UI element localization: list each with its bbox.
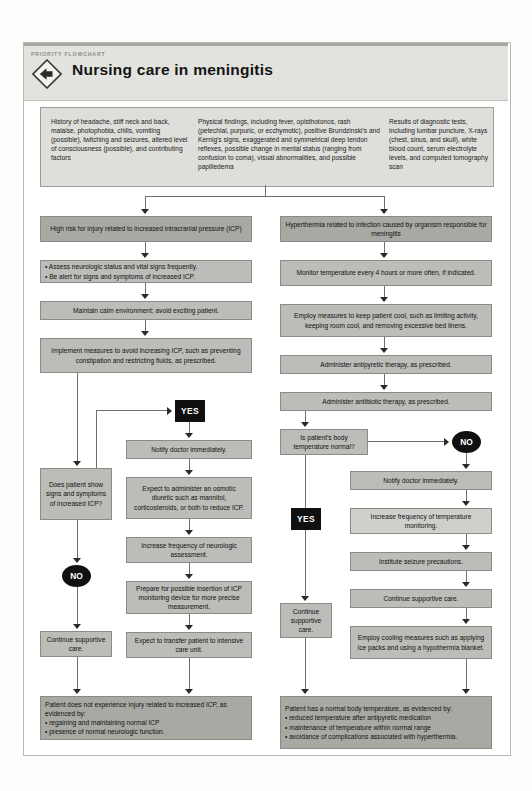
connector [189,658,190,690]
arrow-icon [444,438,449,446]
arrow-icon [185,433,193,438]
left-continue-care-box: Continue supportive care. [40,631,112,657]
arrow-icon [185,470,193,475]
arrow-icon [185,574,193,579]
arrow-icon [301,689,309,694]
left-increase-neuro-assessment-box: Increase frequency of neurologic assessm… [126,537,252,563]
left-transfer-icu-box: Expect to transfer patient to intensive … [126,632,252,658]
connector [384,196,385,210]
arrow-icon [462,464,470,469]
flowchart-page: PRIORITY FLOWCHART Nursing care in menin… [0,0,532,791]
right-decision-box: Is patient's body temperature normal? [280,429,368,455]
left-outcome-box: Patient does not experience injury relat… [40,696,252,740]
assessment-col-history: History of headache, stiff neck and back… [51,117,189,162]
right-continue-care-box: Continue supportive care. [280,603,332,638]
connector [368,441,445,442]
left-yes-badge: YES [175,400,205,422]
arrow-icon [462,619,470,624]
arrow-icon [73,461,81,466]
arrow-icon [73,558,81,563]
connector [466,659,467,690]
arrow-icon [301,422,309,427]
kicker-label: PRIORITY FLOWCHART [31,51,106,57]
connector [145,196,385,197]
bullet-item: • regaining and maintaining normal ICP [45,718,247,727]
connector [77,373,78,462]
header-top-rule [24,43,508,46]
left-osmotic-diuretic-box: Expect to administer an osmotic diuretic… [126,477,252,519]
arrow-icon [380,385,388,390]
right-diagnosis-box: Hyperthermia related to infection caused… [280,216,492,242]
left-calm-environment-box: Maintain calm environment; avoid excitin… [40,301,252,320]
bullet-item: • Assess neurologic status and vital sig… [45,262,197,271]
connector [77,520,78,559]
right-notify-doctor-box: Notify doctor immediately. [350,471,492,490]
right-monitor-temperature-box: Monitor temperature every 4 hours or mor… [280,260,492,286]
left-notify-doctor-box: Notify doctor immediately. [126,440,252,459]
left-implement-measures-box: Implement measures to avoid increasing I… [40,338,252,373]
arrow-icon [380,209,388,214]
right-increase-monitoring-box: Increase frequency of temperature monito… [350,508,492,534]
outcome-intro: Patient has a normal body temperature, a… [285,704,457,713]
arrow-icon [185,530,193,535]
assessment-col-diagnostics: Results of diagnostic tests, including l… [389,117,489,172]
bullet-item: • reduced temperature after antipyretic … [285,713,457,722]
right-antipyretic-box: Administer antipyretic therapy, as presc… [280,355,492,374]
right-cooling-measures-box: Employ cooling measures such as applying… [350,626,492,659]
right-yes-badge: YES [291,508,321,530]
arrow-icon [73,624,81,629]
connector [77,657,78,690]
arrow-icon [462,545,470,550]
arrow-icon [462,689,470,694]
assessment-col-physical: Physical findings, including fever, opis… [198,117,380,172]
arrow-icon [380,297,388,302]
connector [305,530,306,597]
left-no-badge: NO [62,565,91,587]
bullet-item: • avoidance of complications associated … [285,732,457,741]
bullet-item: • presence of normal neurologic function… [45,727,247,736]
arrow-icon [73,689,81,694]
right-outcome-box: Patient has a normal body temperature, a… [280,696,492,749]
connector [77,587,78,625]
connector [96,410,168,411]
arrow-icon [141,331,149,336]
outcome-intro: Patient does not experience injury relat… [45,700,247,718]
bullet-item: • Be alert for signs and symptoms of inc… [45,272,197,281]
arrow-icon [167,407,172,415]
arrow-icon [380,348,388,353]
right-antibiotic-box: Administer antibiotic therapy, as prescr… [280,392,492,411]
connector [305,638,306,690]
bullet-item: • maintenance of temperature within norm… [285,723,457,732]
right-keep-cool-box: Employ measures to keep patient cool, su… [280,304,492,337]
connector [305,455,306,508]
arrow-icon [141,209,149,214]
arrow-icon [185,689,193,694]
arrow-icon [462,582,470,587]
right-no-badge: NO [452,431,481,453]
right-seizure-precautions-box: Institute seizure precautions. [350,552,492,571]
diamond-left-arrow-icon [32,59,62,89]
left-diagnosis-box: High risk for injury related to increase… [40,216,252,242]
arrow-icon [380,253,388,258]
arrow-icon [462,501,470,506]
arrow-icon [141,294,149,299]
arrow-icon [141,253,149,258]
page-title: Nursing care in meningitis [72,61,273,79]
arrow-icon [185,625,193,630]
left-interventions-box: • Assess neurologic status and vital sig… [40,260,252,283]
right-supportive-care-box: Continue supportive care. [350,589,492,608]
left-icp-monitoring-box: Prepare for possible insertion of ICP mo… [126,581,252,614]
arrow-icon [301,596,309,601]
assessment-box: History of headache, stiff neck and back… [40,107,494,187]
connector [145,196,146,210]
left-decision-box: Does patient show signs and symptoms of … [40,468,112,520]
